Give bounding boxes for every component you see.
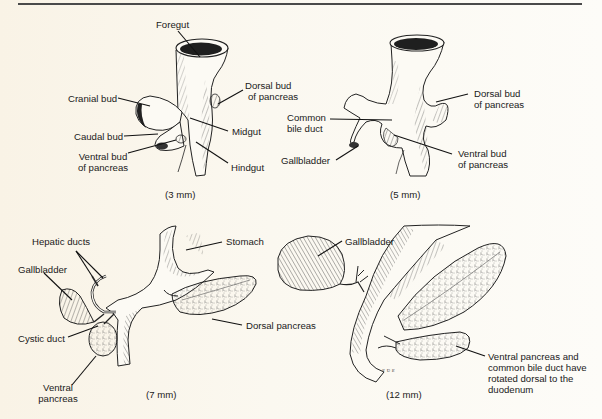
label-common-bile-duct-line2: bile duct	[287, 123, 323, 134]
label-common-bile-duct-line1: Common	[287, 112, 326, 123]
label-stomach: Stomach	[226, 236, 264, 247]
label-dorsal-bud-line2: of pancreas	[474, 99, 524, 110]
label-note-line1: Ventral pancreas and	[488, 351, 579, 362]
label-note-line3: rotated dorsal to the	[488, 373, 573, 384]
panel-7mm-drawing	[59, 226, 256, 366]
label-hepatic-ducts: Hepatic ducts	[32, 236, 90, 247]
svg-text:ɛ ʋ ɛ: ɛ ʋ ɛ	[382, 366, 395, 374]
label-hindgut: Hindgut	[231, 162, 264, 173]
label-ventral-bud-line1: Ventral bud	[76, 151, 130, 162]
caption-12mm: (12 mm)	[386, 389, 422, 400]
caption-5mm: (5 mm)	[390, 189, 420, 200]
label-ventral-pancreas-line2: pancreas	[34, 393, 82, 404]
label-ventral-pancreas-line1: Ventral	[38, 382, 78, 393]
label-caudal-bud: Caudal bud	[74, 131, 123, 142]
caption-3mm: (3 mm)	[165, 189, 195, 200]
label-dorsal-pancreas: Dorsal pancreas	[246, 320, 316, 331]
panel-3mm-drawing	[136, 39, 228, 176]
label-dorsal-bud-line1: Dorsal bud	[245, 80, 291, 91]
label-ventral-bud-line2: of pancreas	[458, 159, 508, 170]
label-ventral-bud-line1: Ventral bud	[458, 148, 507, 159]
label-gallbladder: Gallbladder	[281, 155, 330, 166]
label-gallbladder: Gallbladder	[345, 236, 394, 247]
label-note-line2: common bile duct have	[488, 362, 587, 373]
label-midgut: Midgut	[232, 126, 261, 137]
label-ventral-bud-line2: of pancreas	[76, 162, 130, 173]
label-gallbladder: Gallbladder	[18, 264, 67, 275]
label-dorsal-bud-line2: of pancreas	[248, 91, 298, 102]
panel-5mm-drawing	[344, 35, 448, 176]
label-dorsal-bud-line1: Dorsal bud	[474, 88, 520, 99]
label-cranial-bud: Cranial bud	[68, 93, 117, 104]
label-cystic-duct: Cystic duct	[18, 333, 65, 344]
label-note-line4: duodenum	[488, 384, 533, 395]
caption-7mm: (7 mm)	[146, 389, 176, 400]
panel-12mm-drawing: ɛ ʋ ɛ	[278, 225, 506, 382]
label-foregut: Foregut	[156, 19, 189, 30]
